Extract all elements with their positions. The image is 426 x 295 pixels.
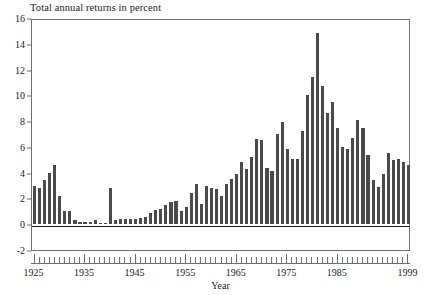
bar <box>73 220 76 224</box>
bar <box>255 139 258 224</box>
bar <box>190 193 193 224</box>
bar <box>104 223 107 224</box>
x-tick-minor <box>109 257 110 263</box>
x-tick-minor <box>54 257 55 263</box>
bar <box>351 138 354 224</box>
bar <box>58 196 61 224</box>
bar <box>316 33 319 224</box>
x-tick-minor <box>241 257 242 263</box>
x-tick-label: 1955 <box>175 267 195 278</box>
x-tick-major <box>135 254 136 263</box>
x-tick-major <box>84 254 85 263</box>
x-tick-minor <box>130 257 131 263</box>
y-tick-label: 6 <box>20 143 25 153</box>
bar <box>109 188 112 224</box>
plot-area <box>31 19 410 251</box>
x-tick-minor <box>357 257 358 263</box>
x-tick-minor <box>291 257 292 263</box>
bar <box>392 160 395 224</box>
x-tick-minor <box>104 257 105 263</box>
x-tick-minor <box>226 257 227 263</box>
bar <box>215 189 218 224</box>
y-tick-label: 10 <box>15 91 25 101</box>
bar <box>260 140 263 224</box>
x-tick-minor <box>387 257 388 263</box>
x-tick-minor <box>271 257 272 263</box>
bar <box>48 173 51 225</box>
x-tick-minor <box>124 257 125 263</box>
x-tick-minor <box>306 257 307 263</box>
x-tick-minor <box>205 257 206 263</box>
x-tick-minor <box>352 257 353 263</box>
bar <box>407 165 410 224</box>
x-tick-major <box>337 254 338 263</box>
x-tick-minor <box>327 257 328 263</box>
bar <box>356 120 359 224</box>
bar <box>200 204 203 225</box>
bar <box>33 186 36 225</box>
bar <box>119 219 122 224</box>
bar <box>164 205 167 224</box>
x-tick-major <box>34 254 35 263</box>
x-tick-minor <box>170 257 171 263</box>
bar <box>78 222 81 225</box>
x-tick-minor <box>377 257 378 263</box>
bar <box>250 157 253 224</box>
x-tick-minor <box>347 257 348 263</box>
bar <box>139 218 142 224</box>
y-tick-label: -2 <box>17 246 25 256</box>
bar <box>331 102 334 224</box>
bar <box>321 86 324 224</box>
bar <box>336 128 339 225</box>
bar <box>205 186 208 225</box>
x-tick-label: 1975 <box>276 267 296 278</box>
x-tick-minor <box>231 257 232 263</box>
x-tick-minor <box>155 257 156 263</box>
x-tick-minor <box>180 257 181 263</box>
bar <box>114 220 117 224</box>
chart-container: Total annual returns in percent -2024681… <box>0 0 426 295</box>
x-tick-minor <box>332 257 333 263</box>
bar <box>225 184 228 224</box>
bar <box>402 162 405 224</box>
x-tick-label: 1945 <box>125 267 145 278</box>
x-axis-label: Year <box>211 280 229 291</box>
x-tick-minor <box>392 257 393 263</box>
x-tick-minor <box>175 257 176 263</box>
x-tick-minor <box>99 257 100 263</box>
x-tick-minor <box>261 257 262 263</box>
bar <box>149 213 152 225</box>
bar <box>341 147 344 224</box>
y-tick-label: 14 <box>15 40 25 50</box>
bar-series <box>32 20 409 250</box>
x-tick-label: 1999 <box>397 267 417 278</box>
bar <box>154 210 157 224</box>
y-tick-label: 0 <box>20 220 25 230</box>
x-tick-minor <box>251 257 252 263</box>
y-axis: -20246810121416 <box>0 0 31 252</box>
bar <box>245 169 248 224</box>
x-tick-minor <box>145 257 146 263</box>
x-tick-minor <box>342 257 343 263</box>
x-tick-minor <box>215 257 216 263</box>
bar <box>346 149 349 224</box>
x-tick-minor <box>322 257 323 263</box>
bar <box>377 187 380 224</box>
bar <box>366 155 369 225</box>
x-tick-minor <box>89 257 90 263</box>
x-tick-minor <box>49 257 50 263</box>
x-tick-minor <box>246 257 247 263</box>
bar <box>220 196 223 224</box>
bar <box>185 207 188 224</box>
bar <box>291 159 294 225</box>
x-tick-minor <box>165 257 166 263</box>
x-tick-minor <box>79 257 80 263</box>
bar <box>281 122 284 224</box>
x-tick-major <box>286 254 287 263</box>
bar <box>124 219 127 224</box>
x-tick-minor <box>256 257 257 263</box>
bar <box>38 188 41 224</box>
x-axis: Year 19251935194519551965197519851999 <box>31 251 410 295</box>
bar <box>68 211 71 224</box>
x-tick-minor <box>69 257 70 263</box>
